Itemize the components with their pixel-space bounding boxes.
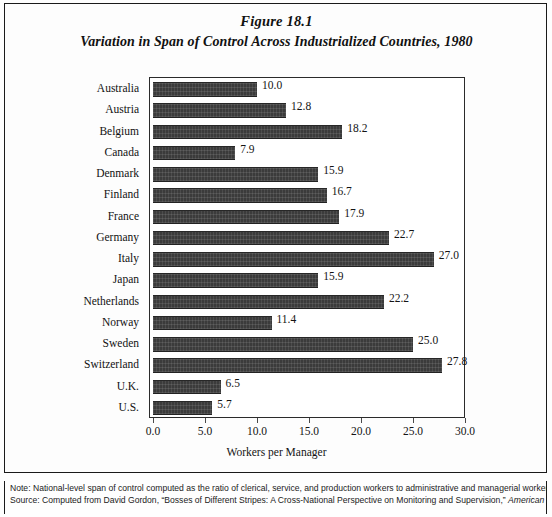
bar-row: 22.2 (153, 291, 465, 312)
figure-frame: Figure 18.1 Variation in Span of Control… (4, 3, 547, 473)
x-tick-mark (309, 418, 310, 423)
x-tick-mark (257, 418, 258, 423)
y-axis-label: Switzerland (5, 354, 146, 375)
bar (153, 188, 327, 203)
bar-row: 6.5 (153, 376, 465, 397)
bar-row: 22.7 (153, 227, 465, 248)
bar (153, 231, 389, 246)
x-tick-label: 30.0 (455, 425, 475, 437)
x-tick-mark (413, 418, 414, 423)
figure-container: Figure 18.1 Variation in Span of Control… (0, 0, 552, 517)
y-axis-label: Germany (5, 227, 146, 248)
bar-row: 27.8 (153, 354, 465, 375)
bar-row: 27.0 (153, 248, 465, 269)
bar (153, 252, 434, 267)
x-axis-tick-labels: 0.05.010.015.020.025.030.0 (153, 425, 465, 441)
bar-row: 17.9 (153, 206, 465, 227)
bar (153, 295, 384, 310)
bar-value-label: 22.2 (389, 292, 409, 304)
bar (153, 210, 339, 225)
y-axis-label: Norway (5, 312, 146, 333)
bar-value-label: 18.2 (347, 122, 367, 134)
bar-row: 11.4 (153, 312, 465, 333)
bar-row: 25.0 (153, 333, 465, 354)
source-journal: American (508, 495, 544, 505)
x-tick-mark (361, 418, 362, 423)
bar-value-label: 15.9 (323, 270, 343, 282)
bar-value-label: 22.7 (394, 228, 414, 240)
bar-value-label: 5.7 (217, 398, 231, 410)
bar (153, 401, 212, 416)
bar-value-label: 27.8 (447, 355, 467, 367)
x-axis-ticks (153, 418, 465, 425)
figure-title: Variation in Span of Control Across Indu… (5, 34, 548, 50)
bar-value-label: 25.0 (418, 334, 438, 346)
y-axis-label: U.K. (5, 376, 146, 397)
y-axis-label: Italy (5, 248, 146, 269)
bar (153, 82, 257, 97)
bar-value-label: 6.5 (226, 377, 240, 389)
x-tick-label: 0.0 (146, 425, 160, 437)
source-text: Source: Computed from David Gordon, “Bos… (10, 495, 508, 505)
bar-value-label: 17.9 (344, 207, 364, 219)
bar (153, 273, 318, 288)
source-line: Source: Computed from David Gordon, “Bos… (10, 495, 542, 507)
bar (153, 103, 286, 118)
figure-notes: Note: National-level span of control com… (4, 481, 547, 514)
bar (153, 167, 318, 182)
note-line: Note: National-level span of control com… (10, 483, 542, 495)
bar-value-label: 27.0 (439, 249, 459, 261)
x-tick-label: 20.0 (351, 425, 371, 437)
x-tick-label: 10.0 (247, 425, 267, 437)
bar (153, 337, 413, 352)
bar (153, 146, 235, 161)
bar-row: 16.7 (153, 184, 465, 205)
bar-row: 10.0 (153, 78, 465, 99)
x-tick-label: 15.0 (299, 425, 319, 437)
y-axis-label: Canada (5, 142, 146, 163)
y-axis-label: Finland (5, 184, 146, 205)
bar-value-label: 15.9 (323, 164, 343, 176)
figure-number: Figure 18.1 (5, 13, 548, 30)
bar-value-label: 12.8 (291, 100, 311, 112)
x-tick-mark (205, 418, 206, 423)
x-tick-mark (465, 418, 466, 423)
x-axis-title: Workers per Manager (5, 446, 548, 458)
bar-value-label: 11.4 (277, 313, 297, 325)
bar-row: 15.9 (153, 269, 465, 290)
bar (153, 316, 272, 331)
x-tick-label: 25.0 (403, 425, 423, 437)
y-axis-label: France (5, 206, 146, 227)
bar-row: 12.8 (153, 99, 465, 120)
bar (153, 358, 442, 373)
bar-row: 18.2 (153, 121, 465, 142)
y-axis-category-labels: AustraliaAustriaBelgiumCanadaDenmarkFinl… (5, 78, 146, 418)
y-axis-label: Japan (5, 269, 146, 290)
bar (153, 125, 342, 140)
y-axis-label: Austria (5, 99, 146, 120)
bar-value-label: 7.9 (240, 143, 254, 155)
y-axis-label: Belgium (5, 121, 146, 142)
bar-value-label: 10.0 (262, 79, 282, 91)
bar-value-label: 16.7 (332, 185, 352, 197)
y-axis-label: Denmark (5, 163, 146, 184)
x-tick-mark (153, 418, 154, 423)
y-axis-label: U.S. (5, 397, 146, 418)
y-axis-label: Australia (5, 78, 146, 99)
bar-row: 15.9 (153, 163, 465, 184)
bar-row: 7.9 (153, 142, 465, 163)
y-axis-label: Sweden (5, 333, 146, 354)
bar-series: 10.012.818.27.915.916.717.922.727.015.92… (153, 78, 465, 418)
bar-row: 5.7 (153, 397, 465, 418)
y-axis-label: Netherlands (5, 291, 146, 312)
bar (153, 380, 221, 395)
x-tick-label: 5.0 (198, 425, 212, 437)
